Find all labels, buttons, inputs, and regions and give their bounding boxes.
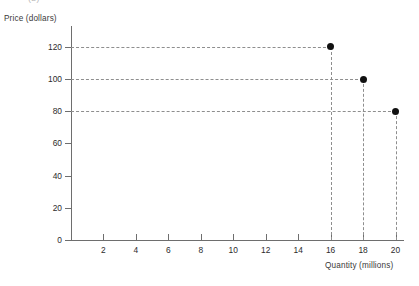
- y-tick-mark: [65, 143, 71, 144]
- y-tick-label: 60: [36, 138, 62, 148]
- y-tick-label: 100: [36, 74, 62, 84]
- horizontal-guide-line: [71, 111, 396, 112]
- x-tick-mark: [298, 234, 299, 240]
- vertical-guide-line: [396, 111, 397, 240]
- x-tick-label: 20: [386, 245, 406, 255]
- data-point: [327, 43, 334, 50]
- y-tick-mark: [65, 47, 71, 48]
- y-tick-mark: [65, 79, 71, 80]
- y-axis-line: [71, 26, 72, 241]
- data-point: [360, 76, 367, 83]
- y-axis-title: Price (dollars): [4, 14, 57, 23]
- x-tick-label: 18: [353, 245, 373, 255]
- x-tick-label: 16: [321, 245, 341, 255]
- y-tick-label: 120: [36, 42, 62, 52]
- x-tick-label: 12: [256, 245, 276, 255]
- vertical-guide-line: [331, 47, 332, 240]
- x-tick-mark: [201, 234, 202, 240]
- x-tick-mark: [266, 234, 267, 240]
- x-tick-label: 10: [223, 245, 243, 255]
- vertical-guide-line: [363, 79, 364, 240]
- y-tick-mark: [65, 176, 71, 177]
- y-tick-label: 0: [36, 235, 62, 245]
- x-axis-line: [71, 240, 404, 241]
- horizontal-guide-line: [71, 47, 331, 48]
- x-tick-mark: [396, 234, 397, 240]
- x-tick-mark: [331, 234, 332, 240]
- x-tick-label: 6: [158, 245, 178, 255]
- y-tick-label: 20: [36, 203, 62, 213]
- chart-figure: (b) Price (dollars) Quantity (millions) …: [0, 0, 419, 286]
- y-tick-mark: [65, 208, 71, 209]
- y-tick-mark: [65, 111, 71, 112]
- x-tick-label: 8: [191, 245, 211, 255]
- y-tick-label: 80: [36, 106, 62, 116]
- x-tick-mark: [136, 234, 137, 240]
- x-tick-mark: [363, 234, 364, 240]
- horizontal-guide-line: [71, 79, 363, 80]
- x-tick-label: 14: [288, 245, 308, 255]
- x-tick-mark: [168, 234, 169, 240]
- x-tick-label: 4: [126, 245, 146, 255]
- x-tick-mark: [103, 234, 104, 240]
- x-tick-label: 2: [93, 245, 113, 255]
- data-point: [392, 108, 399, 115]
- x-axis-title: Quantity (millions): [325, 261, 393, 270]
- y-tick-mark: [65, 240, 71, 241]
- y-tick-label: 40: [36, 171, 62, 181]
- panel-label: (b): [28, 0, 40, 3]
- x-tick-mark: [233, 234, 234, 240]
